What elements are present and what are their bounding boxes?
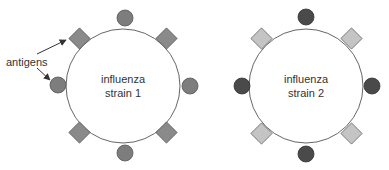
antigen-circle [117, 145, 133, 161]
virus-body [249, 29, 363, 143]
antigen-circle [234, 78, 250, 94]
virus-label-line2: strain 1 [105, 87, 141, 99]
virus-label-line1: influenza [101, 73, 146, 85]
antigen-circle [182, 78, 198, 94]
antigen-circle [364, 78, 380, 94]
antigen-circle [298, 9, 314, 25]
antigens-label: antigens [6, 56, 48, 68]
antigen-circle [117, 10, 133, 26]
virus-strain-2: influenza strain 2 [234, 9, 380, 162]
virus-strain-1: influenza strain 1 [50, 10, 198, 161]
antigens-annotation: antigens [6, 40, 66, 80]
arrow-icon [37, 40, 66, 54]
arrow-icon [37, 68, 50, 80]
antigen-circle [298, 146, 314, 162]
antigen-diagram: influenza strain 1 antigens influenza st… [0, 0, 389, 170]
virus-label-line1: influenza [284, 73, 329, 85]
virus-label-line2: strain 2 [288, 87, 324, 99]
antigen-circle [50, 77, 66, 93]
